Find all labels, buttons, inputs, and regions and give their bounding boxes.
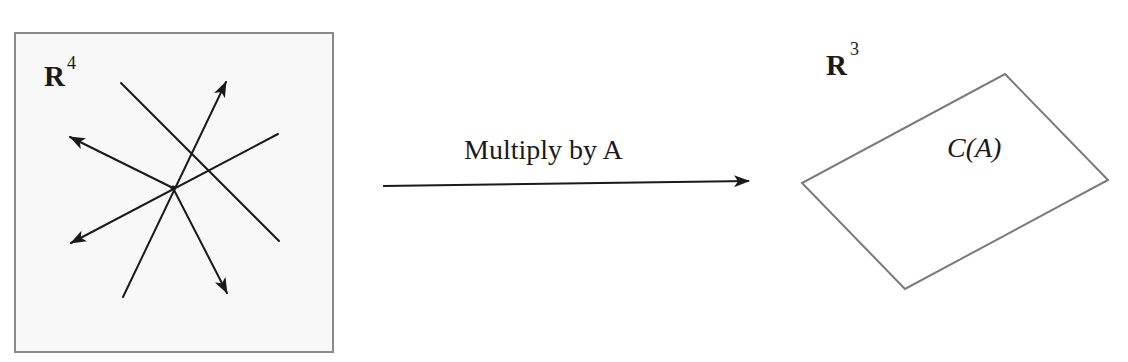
column-space-label: C(A) <box>947 132 1001 163</box>
codomain-space-r3: R3 C(A) <box>802 39 1108 289</box>
codomain-label: R3 <box>826 39 859 81</box>
mapping-label: Multiply by A <box>464 134 623 165</box>
codomain-exponent: 3 <box>850 39 859 59</box>
linear-map-diagram: R4 Multiply by A R3 C(A) <box>0 0 1128 362</box>
origin-point <box>171 186 176 191</box>
domain-space-r4: R4 <box>15 33 333 352</box>
mapping-arrow: Multiply by A <box>383 134 749 186</box>
domain-exponent: 4 <box>67 53 76 73</box>
column-space-plane <box>802 74 1108 289</box>
mapping-arrow-line <box>383 181 749 186</box>
